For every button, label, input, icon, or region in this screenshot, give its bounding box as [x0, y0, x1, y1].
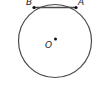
center-point: [54, 38, 57, 41]
label-center: O: [45, 40, 52, 50]
label-b: B: [26, 0, 32, 7]
circle-diagram: B A O: [0, 0, 98, 88]
circle: [19, 5, 92, 78]
point-b: [32, 6, 35, 9]
label-a: A: [77, 0, 84, 7]
